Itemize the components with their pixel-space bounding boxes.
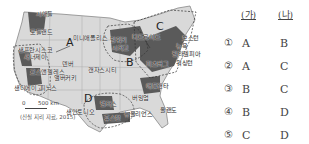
option-number: ② — [224, 60, 233, 71]
option-na: C — [280, 60, 288, 73]
option-number: ⑤ — [224, 129, 233, 140]
city-label: 시애틀 — [36, 10, 53, 17]
option-number: ① — [224, 37, 233, 48]
header-ga: (가) — [241, 8, 256, 21]
source-citation: (신실 지리 자료, 2015) — [20, 113, 75, 121]
option-ga: A — [242, 37, 250, 50]
answer-option-4[interactable]: ④ B D — [224, 106, 309, 122]
city-label: 캔자스시티 — [88, 66, 117, 73]
option-number: ③ — [224, 83, 233, 94]
city-label: 댈러스 — [100, 100, 117, 107]
city-label: 버밍엄 — [132, 94, 149, 101]
scale-label: 500 km — [38, 100, 59, 106]
city-label: 샌프란시스코 — [18, 46, 52, 53]
scale-zero: 0 — [22, 100, 26, 106]
city-label: 밀워키 — [110, 36, 127, 43]
option-number: ④ — [224, 106, 233, 117]
option-ga: B — [242, 106, 250, 119]
option-na: C — [280, 83, 288, 96]
city-label: 워싱턴 — [176, 59, 193, 66]
city-label: 새너제이 — [24, 53, 47, 60]
answer-option-2[interactable]: ② A C — [224, 60, 309, 76]
answer-option-5[interactable]: ⑤ C D — [224, 129, 309, 144]
us-map: A B C D 시애틀 포틀랜드 샌프란시스코 새너제이 로스앤젤레스 샌디에이… — [0, 0, 222, 144]
city-label: 휴스턴 — [104, 114, 121, 121]
city-label: 피닉스 — [40, 84, 57, 91]
city-label: 뉴올리언스 — [124, 110, 153, 117]
city-label: 애틀랜타 — [146, 82, 169, 89]
city-label: 보스턴 — [182, 34, 199, 41]
region-label-d: D — [84, 92, 92, 105]
region-label-b: B — [126, 56, 134, 69]
option-ga: C — [242, 129, 250, 142]
city-label: 포틀랜드 — [30, 28, 53, 35]
region-label-c: C — [156, 20, 164, 33]
city-label: 샌디에이고 — [14, 84, 43, 91]
city-label: 앨버커키 — [54, 74, 77, 81]
option-na: D — [280, 129, 289, 142]
city-label: 뉴욕 — [176, 42, 187, 49]
option-na: D — [280, 106, 289, 119]
option-na: B — [280, 37, 288, 50]
city-label: 피츠버그 — [146, 60, 169, 67]
city-label: 필라델피아 — [172, 50, 201, 57]
answer-option-1[interactable]: ① A B — [224, 37, 309, 53]
city-label: 미니애폴리스 — [73, 34, 107, 41]
city-label: 디트로이트 — [132, 33, 161, 40]
city-label: 시카고 — [112, 44, 129, 51]
option-ga: B — [242, 83, 250, 96]
answer-option-3[interactable]: ③ B C — [224, 83, 309, 99]
option-ga: A — [242, 60, 250, 73]
header-na: (나) — [278, 8, 293, 21]
scale-bar — [25, 108, 47, 109]
city-label: 올랜도 — [160, 106, 177, 113]
city-label: 덴버 — [62, 60, 73, 67]
